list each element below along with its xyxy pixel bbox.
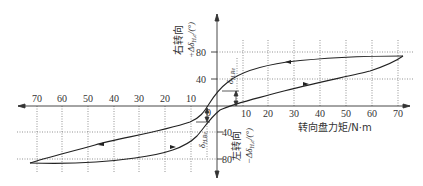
y-tick-zero: 0 <box>206 107 211 118</box>
x-tick: 60 <box>57 93 67 104</box>
hysteresis-diagram: 70 60 50 40 30 20 10 10 20 30 40 50 60 7… <box>0 0 423 186</box>
svg-text:δH,Re: δH,Re <box>225 67 236 84</box>
residual-label-upper: δH,Re <box>225 67 236 84</box>
svg-text:+ΔδH,e/(°): +ΔδH,e/(°) <box>186 22 197 58</box>
svg-text:左转向: 左转向 <box>230 131 242 161</box>
x-tick: 70 <box>32 93 42 104</box>
x-tick-labels-right: 10 20 30 40 50 60 70 <box>241 108 403 119</box>
svg-text:右转向: 右转向 <box>172 25 184 55</box>
x-tick-labels-left: 70 60 50 40 30 20 10 <box>32 93 196 104</box>
arrow-right-icon <box>170 145 176 149</box>
x-tick: 60 <box>367 108 377 119</box>
y-axis-label-negative: 左转向 <box>230 131 242 161</box>
x-tick: 20 <box>160 93 170 104</box>
x-tick: 30 <box>289 108 299 119</box>
y-tick: 40 <box>196 74 206 85</box>
svg-text:−ΔδH,e/(°): −ΔδH,e/(°) <box>244 128 255 164</box>
x-tick: 30 <box>134 93 144 104</box>
x-tick: 20 <box>263 108 273 119</box>
residual-markers <box>196 91 239 122</box>
y-axis-symbol-positive: +ΔδH,e/(°) <box>186 22 197 58</box>
x-tick: 40 <box>109 93 119 104</box>
arrow-left-icon <box>285 60 291 64</box>
x-axis-label: 转向盘力矩/N·m <box>298 121 372 133</box>
x-tick: 50 <box>83 93 93 104</box>
x-tick: 40 <box>315 108 325 119</box>
y-axis-label-positive: 右转向 <box>172 25 184 55</box>
x-tick: 50 <box>341 108 351 119</box>
y-axis-symbol-negative: −ΔδH,e/(°) <box>244 128 255 164</box>
x-tick: 10 <box>241 108 251 119</box>
x-tick: 70 <box>393 108 403 119</box>
y-tick: 80 <box>196 47 206 58</box>
x-tick: 10 <box>186 93 196 104</box>
